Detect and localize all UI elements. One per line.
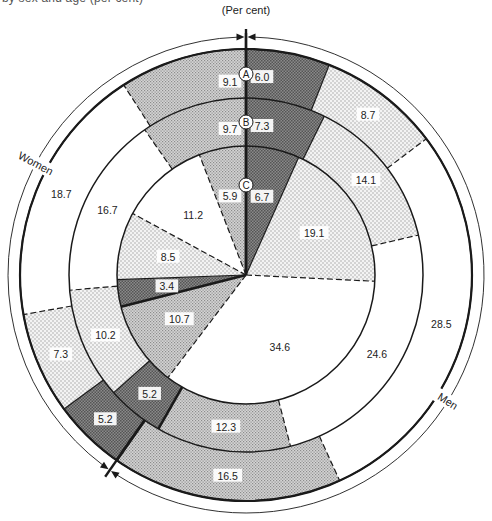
segment-value: 3.4 (160, 280, 175, 292)
segment-value: 8.7 (361, 109, 376, 121)
segment-value: 10.2 (95, 329, 116, 341)
segment-value: 18.7 (51, 188, 72, 200)
segment-value: 5.9 (223, 190, 238, 202)
segment-value: 9.7 (223, 123, 238, 135)
segment-value: 16.7 (97, 204, 118, 216)
ring-letter-A: A (243, 69, 250, 80)
arrowhead-icon (100, 462, 109, 469)
unit-label: (Per cent) (222, 4, 270, 16)
chart-annotations: (Per cent) (222, 4, 270, 16)
segment-value: 11.2 (183, 209, 203, 221)
segment-value: 7.3 (54, 348, 69, 360)
segment-value: 7.3 (255, 120, 270, 132)
segment-value: 16.5 (217, 470, 238, 482)
segment-value: 9.1 (223, 76, 238, 88)
segment-value: 5.2 (142, 388, 157, 400)
segment-value: 28.5 (431, 318, 452, 330)
segment-value: 34.6 (270, 341, 291, 353)
segment-value: 8.5 (161, 251, 176, 263)
arrowhead-icon (111, 471, 120, 478)
segment-value: 5.2 (98, 413, 113, 425)
segment-value: 12.3 (216, 421, 237, 433)
arrowhead-icon (237, 34, 245, 41)
segment-value: 24.6 (367, 348, 388, 360)
segment-value: 6.0 (255, 71, 270, 83)
ring-letter-C: C (242, 180, 249, 191)
segment-value: 10.7 (169, 313, 190, 325)
ring-letter-B: B (243, 117, 250, 128)
segment-value: 6.7 (255, 191, 270, 203)
segment-value: 14.1 (356, 174, 377, 186)
arrowhead-icon (248, 34, 256, 41)
segment-value: 19.1 (304, 227, 325, 239)
concentric-ring-chart: 6.08.728.516.55.27.318.79.17.314.124.612… (0, 0, 492, 521)
